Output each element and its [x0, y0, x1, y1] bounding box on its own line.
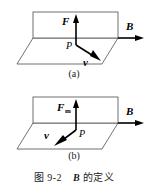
magnetic-field-label-b: B — [125, 105, 133, 117]
point-label-b: P — [78, 128, 85, 139]
caption-text: 的定义 — [83, 172, 114, 183]
magnetic-field-arrowhead-a — [135, 35, 144, 41]
velocity-label-a: v — [83, 56, 88, 68]
force-label-a: F — [61, 15, 70, 27]
panel-a-label: (a) — [0, 68, 148, 79]
point-label-a: P — [65, 40, 72, 51]
magnetic-force-label-b: F — [56, 101, 65, 113]
caption-symbol: B — [72, 172, 81, 183]
panel-b-label: (b) — [0, 150, 148, 161]
magnetic-force-subscript-b: m — [65, 107, 71, 115]
velocity-label-b: v — [44, 129, 49, 141]
figure-caption: 图 9-2 B 的定义 — [0, 169, 148, 184]
magnetic-field-label-a: B — [125, 20, 133, 32]
figure-container: F v B P (a) F m — [0, 0, 148, 190]
caption-number: 图 9-2 — [34, 172, 62, 183]
magnetic-field-arrowhead-b — [135, 120, 144, 126]
